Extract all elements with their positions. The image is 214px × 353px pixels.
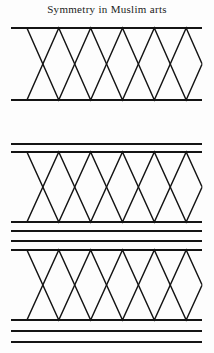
band-2 — [11, 144, 202, 241]
band-1-zigzag-mirror — [11, 28, 202, 100]
symmetry-figure: Symmetry in Muslim arts — [0, 0, 214, 353]
band-1 — [11, 28, 202, 100]
band-3 — [11, 241, 202, 342]
band-2-zigzag-mirror — [11, 152, 202, 222]
pattern-canvas — [0, 0, 214, 353]
band-3-zigzag-mirror — [11, 250, 202, 320]
